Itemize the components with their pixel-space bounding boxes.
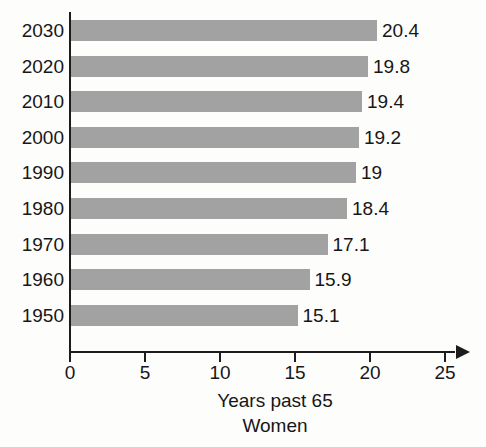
category-label: 1960 bbox=[6, 269, 64, 290]
bar-value-label: 19 bbox=[361, 162, 382, 183]
x-axis-arrow-icon bbox=[456, 345, 470, 359]
bar-value-label: 15.9 bbox=[315, 269, 352, 290]
category-label: 2010 bbox=[6, 91, 64, 112]
x-axis-line bbox=[69, 351, 455, 353]
x-axis-tick-label: 0 bbox=[48, 362, 92, 384]
series-caption: Women bbox=[0, 415, 486, 437]
x-axis-tick-label: 10 bbox=[198, 362, 242, 384]
bar-value-label: 18.4 bbox=[352, 198, 389, 219]
bar bbox=[71, 234, 328, 255]
x-axis-tick bbox=[444, 353, 446, 362]
x-axis-tick-label: 25 bbox=[423, 362, 467, 384]
bar bbox=[71, 91, 362, 112]
bar bbox=[71, 20, 377, 41]
x-axis-tick-label: 15 bbox=[273, 362, 317, 384]
bar-row: 197017.1 bbox=[0, 234, 486, 270]
category-label: 1970 bbox=[6, 234, 64, 255]
x-axis-tick bbox=[144, 353, 146, 362]
bar-row: 202019.8 bbox=[0, 56, 486, 92]
bar bbox=[71, 162, 356, 183]
bar-value-label: 20.4 bbox=[382, 20, 419, 41]
bar-row: 199019 bbox=[0, 162, 486, 198]
bar-row: 203020.4 bbox=[0, 20, 486, 56]
bar-value-label: 19.4 bbox=[367, 91, 404, 112]
bar-row: 195015.1 bbox=[0, 305, 486, 341]
x-axis-label: Years past 65 bbox=[0, 390, 486, 412]
x-axis-tick bbox=[369, 353, 371, 362]
bar-row: 198018.4 bbox=[0, 198, 486, 234]
bar-value-label: 19.8 bbox=[373, 56, 410, 77]
bar-value-label: 17.1 bbox=[333, 234, 370, 255]
bar-chart: 0510152025 203020.4202019.8201019.420001… bbox=[0, 0, 486, 447]
bar-value-label: 19.2 bbox=[364, 127, 401, 148]
category-label: 1990 bbox=[6, 162, 64, 183]
bar bbox=[71, 56, 368, 77]
category-label: 2000 bbox=[6, 127, 64, 148]
bar-row: 200019.2 bbox=[0, 127, 486, 163]
x-axis-tick bbox=[69, 353, 71, 362]
bar bbox=[71, 127, 359, 148]
bar-value-label: 15.1 bbox=[303, 305, 340, 326]
category-label: 1950 bbox=[6, 305, 64, 326]
category-label: 1980 bbox=[6, 198, 64, 219]
bar-row: 201019.4 bbox=[0, 91, 486, 127]
bar bbox=[71, 198, 347, 219]
category-label: 2030 bbox=[6, 20, 64, 41]
category-label: 2020 bbox=[6, 56, 64, 77]
x-axis-tick-label: 20 bbox=[348, 362, 392, 384]
bar bbox=[71, 269, 310, 290]
x-axis-tick bbox=[219, 353, 221, 362]
bar-row: 196015.9 bbox=[0, 269, 486, 305]
bar bbox=[71, 305, 298, 326]
x-axis-tick-label: 5 bbox=[123, 362, 167, 384]
x-axis-tick bbox=[294, 353, 296, 362]
